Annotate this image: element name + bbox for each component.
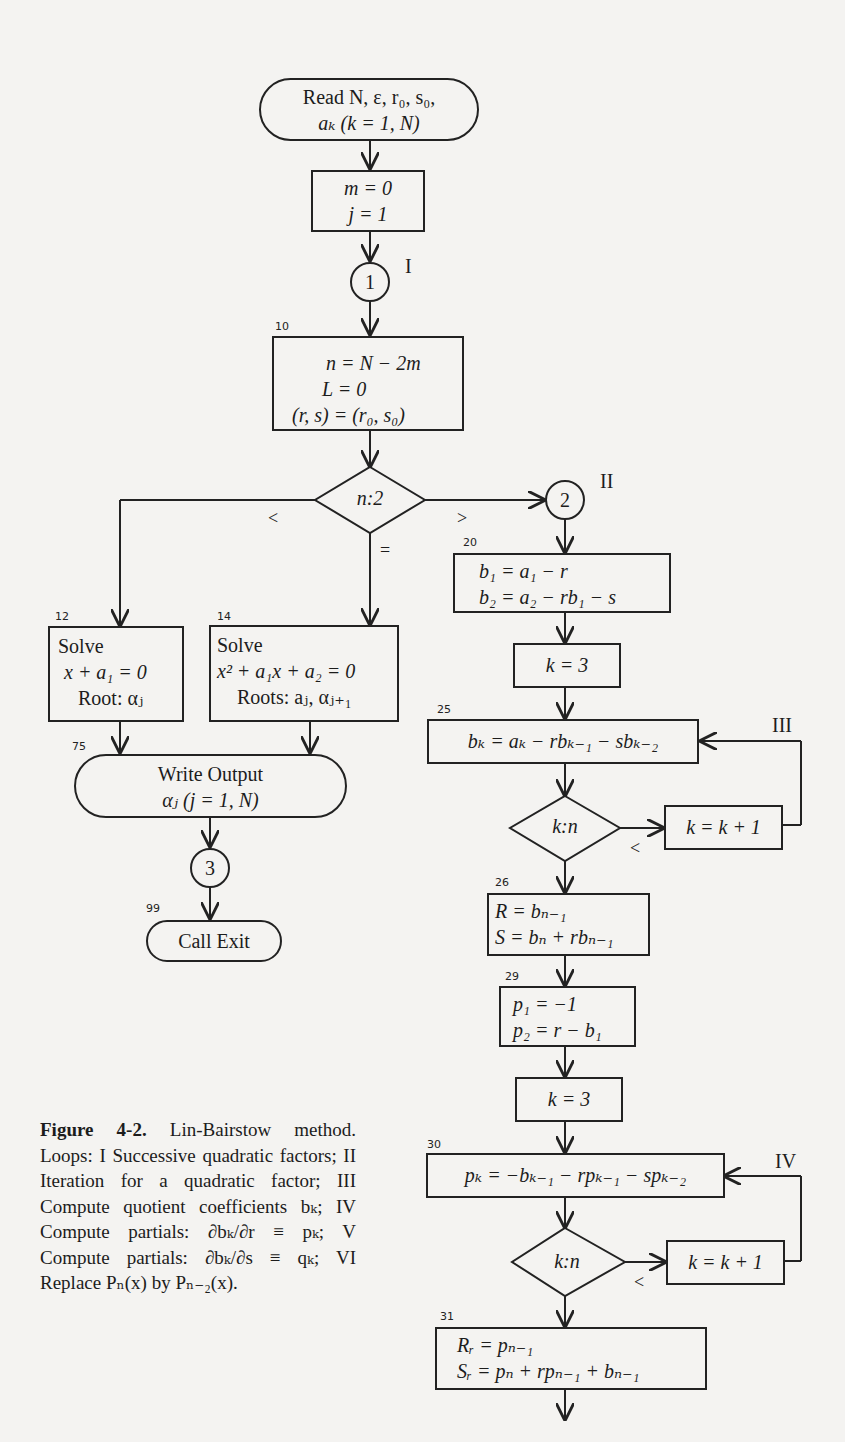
step-20-box: b₁ = a₁ − r b₂ = a₂ − rb₁ − s: [453, 553, 671, 613]
step-number-10: 10: [275, 320, 289, 333]
start-line-1: Read N, ε, r₀, s₀,: [261, 84, 477, 110]
step-10-line-2: L = 0: [292, 376, 462, 402]
step-30-box: pₖ = −bₖ₋₁ − rpₖ₋₁ − spₖ₋₂: [426, 1153, 725, 1198]
step-number-99: 99: [146, 902, 160, 915]
branch-greater-than: >: [457, 508, 467, 529]
step-number-26: 26: [495, 876, 509, 889]
step-31-line-2: Sᵣ = pₙ + rpₙ₋₁ + bₙ₋₁: [457, 1358, 705, 1384]
step-number-31: 31: [440, 1310, 454, 1323]
start-line-2: aₖ (k = 1, N): [261, 110, 477, 136]
decision-kn-1-label: k:n: [535, 815, 595, 838]
k-equals-3-box-a: k = 3: [513, 643, 621, 688]
init-line-2: j = 1: [313, 201, 423, 227]
connector-3: 3: [190, 848, 230, 888]
step-12-line-2: x + a₁ = 0: [58, 659, 182, 685]
init-line-1: m = 0: [313, 175, 423, 201]
step-26-box: R = bₙ₋₁ S = bₙ + rbₙ₋₁: [487, 893, 650, 956]
branch-less-than: <: [268, 508, 278, 529]
start-read-input-terminal: Read N, ε, r₀, s₀, aₖ (k = 1, N): [259, 78, 479, 141]
step-14-line-1: Solve: [217, 632, 397, 658]
figure-caption-text: Lin-Bairstow method. Loops: I Successive…: [40, 1119, 356, 1293]
write-output-line-2: αⱼ (j = 1, N): [76, 787, 345, 813]
init-process-box: m = 0 j = 1: [311, 170, 425, 232]
k-equals-3-box-b: k = 3: [515, 1077, 623, 1122]
step-12-line-3: Root: αⱼ: [58, 685, 182, 711]
step-26-line-1: R = bₙ₋₁: [495, 898, 648, 924]
branch-less-than-kn-1: <: [630, 838, 640, 859]
step-number-29: 29: [505, 970, 519, 983]
step-31-box: Rᵣ = pₙ₋₁ Sᵣ = pₙ + rpₙ₋₁ + bₙ₋₁: [435, 1327, 707, 1390]
increment-k-box-1: k = k + 1: [664, 805, 783, 850]
step-14-line-2: x² + a₁x + a₂ = 0: [217, 658, 397, 684]
step-20-line-1: b₁ = a₁ − r: [479, 558, 669, 584]
step-31-line-1: Rᵣ = pₙ₋₁: [457, 1332, 705, 1358]
step-number-12: 12: [55, 610, 69, 623]
step-12-box: Solve x + a₁ = 0 Root: αⱼ: [48, 626, 184, 722]
increment-k-box-2: k = k + 1: [666, 1240, 785, 1285]
step-number-30: 30: [427, 1138, 441, 1151]
step-number-14: 14: [217, 610, 231, 623]
loop-label-III: III: [772, 714, 792, 737]
step-10-box: n = N − 2m L = 0 (r, s) = (r₀, s₀): [272, 336, 464, 431]
step-number-75: 75: [72, 740, 86, 753]
step-26-line-2: S = bₙ + rbₙ₋₁: [495, 924, 648, 950]
connector-2: 2: [545, 480, 585, 520]
call-exit-terminal: Call Exit: [146, 920, 282, 962]
write-output-terminal: Write Output αⱼ (j = 1, N): [74, 754, 347, 818]
decision-n2-label: n:2: [340, 487, 400, 510]
loop-label-I: I: [405, 255, 412, 278]
step-number-25: 25: [437, 703, 451, 716]
step-25-box: bₖ = aₖ − rbₖ₋₁ − sbₖ₋₂: [427, 719, 699, 764]
step-number-20: 20: [463, 536, 477, 549]
write-output-line-1: Write Output: [76, 761, 345, 787]
step-29-box: p₁ = −1 p₂ = r − b₁: [499, 986, 636, 1047]
step-10-line-3: (r, s) = (r₀, s₀): [292, 402, 462, 428]
step-29-line-1: p₁ = −1: [513, 991, 634, 1017]
loop-label-II: II: [600, 470, 613, 493]
connector-1: 1: [350, 262, 390, 302]
step-12-line-1: Solve: [58, 633, 182, 659]
branch-less-than-kn-2: <: [634, 1272, 644, 1293]
branch-equal: =: [380, 540, 390, 561]
step-29-line-2: p₂ = r − b₁: [513, 1017, 634, 1043]
step-20-line-2: b₂ = a₂ − rb₁ − s: [479, 584, 669, 610]
decision-kn-2-label: k:n: [537, 1250, 597, 1273]
step-10-line-1: n = N − 2m: [292, 350, 462, 376]
figure-caption: Figure 4-2. Lin-Bairstow method. Loops: …: [40, 1117, 356, 1296]
loop-label-IV: IV: [775, 1150, 796, 1173]
step-14-box: Solve x² + a₁x + a₂ = 0 Roots: aⱼ, αⱼ₊₁: [209, 625, 399, 722]
figure-caption-label: Figure 4-2.: [40, 1119, 147, 1140]
step-14-line-3: Roots: aⱼ, αⱼ₊₁: [217, 684, 397, 710]
